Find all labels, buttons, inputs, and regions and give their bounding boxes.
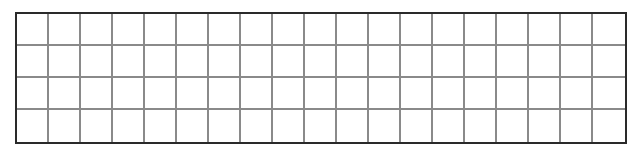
grid-cell — [465, 78, 497, 110]
grid-cell — [305, 46, 337, 78]
grid-cell — [593, 46, 625, 78]
grid-cell — [145, 78, 177, 110]
grid-cell — [337, 78, 369, 110]
grid-cell — [497, 110, 529, 142]
grid-cell — [49, 46, 81, 78]
grid-cell — [49, 110, 81, 142]
grid-cell — [497, 14, 529, 46]
grid-cell — [401, 78, 433, 110]
grid-cell — [305, 110, 337, 142]
grid-cell — [305, 78, 337, 110]
grid-cell — [17, 110, 49, 142]
grid-cell — [561, 110, 593, 142]
grid-cell — [113, 78, 145, 110]
grid-cell — [401, 14, 433, 46]
grid-cell — [113, 46, 145, 78]
grid-cell — [241, 46, 273, 78]
grid-cell — [241, 110, 273, 142]
grid-cell — [561, 46, 593, 78]
grid-cell — [497, 46, 529, 78]
grid-cell — [49, 78, 81, 110]
grid-cell — [81, 110, 113, 142]
grid-cell — [337, 14, 369, 46]
grid-cell — [209, 14, 241, 46]
grid-cell — [529, 110, 561, 142]
grid-cell — [433, 14, 465, 46]
grid-cell — [529, 78, 561, 110]
grid-cell — [529, 14, 561, 46]
grid-cell — [177, 46, 209, 78]
grid-cell — [337, 110, 369, 142]
grid-cell — [81, 46, 113, 78]
grid-cell — [561, 78, 593, 110]
grid-cell — [369, 110, 401, 142]
grid-cell — [433, 46, 465, 78]
grid-cell — [273, 78, 305, 110]
grid-cell — [497, 78, 529, 110]
grid-cell — [273, 110, 305, 142]
grid-cell — [305, 14, 337, 46]
grid-cell — [177, 110, 209, 142]
grid-cell — [433, 110, 465, 142]
grid-cell — [177, 14, 209, 46]
grid-cell — [593, 110, 625, 142]
grid-cell — [145, 14, 177, 46]
grid-cell — [145, 110, 177, 142]
grid-cell — [369, 78, 401, 110]
grid-cell — [273, 14, 305, 46]
grid-cell — [209, 46, 241, 78]
grid-body — [17, 14, 625, 142]
grid-cell — [369, 46, 401, 78]
grid-cell — [17, 46, 49, 78]
grid-cell — [113, 110, 145, 142]
grid-cell — [241, 78, 273, 110]
grid-cell — [17, 14, 49, 46]
grid-cell — [337, 46, 369, 78]
grid-cell — [145, 46, 177, 78]
grid-cell — [49, 14, 81, 46]
grid-cell — [465, 14, 497, 46]
grid-cell — [433, 78, 465, 110]
grid-cell — [113, 14, 145, 46]
grid-cell — [529, 46, 561, 78]
grid-cell — [369, 14, 401, 46]
grid-cell — [401, 46, 433, 78]
grid-cell — [209, 110, 241, 142]
grid-cell — [465, 110, 497, 142]
grid-cell — [593, 78, 625, 110]
empty-grid — [15, 12, 627, 144]
grid-cell — [17, 78, 49, 110]
grid-cell — [177, 78, 209, 110]
grid-cell — [209, 78, 241, 110]
grid-cell — [273, 46, 305, 78]
grid-cell — [401, 110, 433, 142]
grid-cell — [465, 46, 497, 78]
grid-cell — [81, 14, 113, 46]
grid-cell — [593, 14, 625, 46]
grid-cell — [561, 14, 593, 46]
grid-cell — [241, 14, 273, 46]
grid-cell — [81, 78, 113, 110]
